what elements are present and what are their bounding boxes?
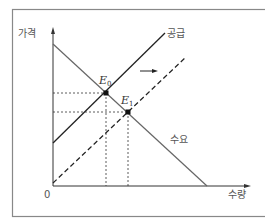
frame bbox=[13, 10, 266, 217]
e1-point bbox=[126, 110, 131, 115]
x-axis-arrow-icon bbox=[244, 184, 251, 188]
y-axis-label: 가격 bbox=[18, 27, 36, 39]
demand-curve bbox=[53, 44, 207, 186]
y-axis-arrow-icon bbox=[51, 27, 55, 34]
demand-label: 수요 bbox=[170, 134, 188, 145]
origin-label: 0 bbox=[44, 189, 50, 200]
e0-label: E0 bbox=[98, 74, 112, 88]
shifted-supply-curve bbox=[53, 57, 186, 183]
supply-label: 공급 bbox=[167, 28, 185, 39]
supply-demand-diagram: 가격 수량 0 공급 수요 E0 E1 bbox=[0, 0, 265, 222]
e0-point bbox=[104, 91, 109, 96]
shift-arrow-icon bbox=[152, 69, 158, 73]
x-axis-label: 수량 bbox=[228, 189, 246, 200]
e1-label: E1 bbox=[120, 94, 134, 108]
supply-curve bbox=[53, 33, 165, 143]
